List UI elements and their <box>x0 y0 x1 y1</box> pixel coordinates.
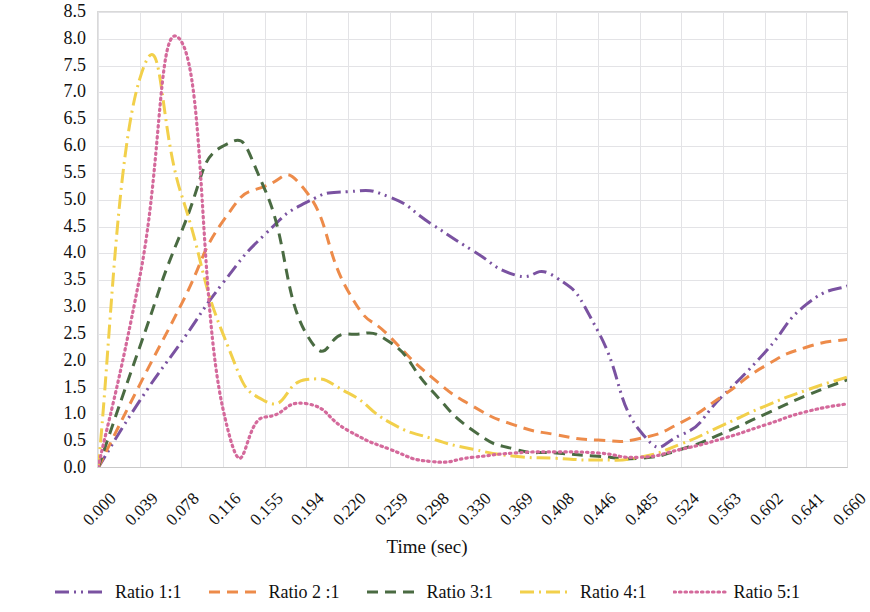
legend-label: Ratio 3:1 <box>427 582 494 603</box>
legend-swatch-icon <box>519 585 573 599</box>
legend-item[interactable]: Ratio 2 :1 <box>208 582 340 603</box>
legend-label: Ratio 2 :1 <box>269 582 340 603</box>
legend-item[interactable]: Ratio 5:1 <box>673 582 801 603</box>
legend-item[interactable]: Ratio 1:1 <box>54 582 182 603</box>
legend-label: Ratio 4:1 <box>580 582 647 603</box>
legend-swatch-icon <box>54 585 108 599</box>
legend-label: Ratio 1:1 <box>115 582 182 603</box>
x-axis-title: Time (sec) <box>0 536 854 558</box>
chart-legend: Ratio 1:1Ratio 2 :1Ratio 3:1Ratio 4:1Rat… <box>0 578 854 606</box>
legend-swatch-icon <box>366 585 420 599</box>
legend-label: Ratio 5:1 <box>734 582 801 603</box>
legend-swatch-icon <box>673 585 727 599</box>
legend-item[interactable]: Ratio 4:1 <box>519 582 647 603</box>
legend-item[interactable]: Ratio 3:1 <box>366 582 494 603</box>
legend-swatch-icon <box>208 585 262 599</box>
